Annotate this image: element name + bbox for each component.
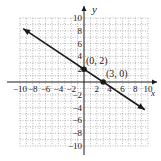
x-tick-label: 8 (133, 84, 138, 94)
x-tick-label: 6 (120, 84, 125, 94)
y-tick-label: −6 (72, 115, 82, 125)
y-tick-label: −2 (72, 90, 82, 100)
data-point (100, 79, 106, 85)
x-tick-label: −8 (28, 84, 38, 94)
x-tick-label: −10 (13, 84, 28, 94)
x-axis-label: x (150, 88, 155, 98)
y-tick-label: 4 (78, 51, 83, 61)
point-label-3-0: (3, 0) (106, 68, 128, 80)
y-axis-label: y (91, 3, 97, 15)
x-tick-label: −4 (54, 84, 64, 94)
line-graph: −10−8−6−4−2246810108642−2−4−6−8−10 y x (… (0, 0, 161, 161)
x-tick-label: −6 (41, 84, 51, 94)
y-tick-label: 6 (78, 39, 83, 49)
point-label-0-2: (0, 2) (86, 55, 108, 67)
data-point (81, 66, 87, 72)
x-tick-label: 2 (95, 84, 100, 94)
y-tick-label: 8 (78, 26, 83, 36)
y-tick-label: −4 (72, 103, 82, 113)
x-axis-arrow-icon (152, 80, 157, 85)
y-axis-arrow-icon (82, 6, 87, 11)
line-arrow-right-icon (137, 103, 144, 109)
y-tick-label: −8 (72, 128, 82, 138)
y-tick-label: −10 (68, 141, 83, 151)
axes (7, 6, 157, 155)
line-arrow-left-icon (23, 29, 30, 35)
y-tick-label: 10 (73, 13, 83, 23)
